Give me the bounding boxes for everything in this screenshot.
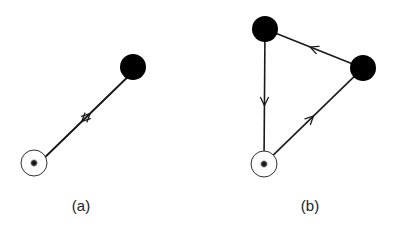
panel-a-label: (a) <box>72 197 90 214</box>
filled-node <box>350 55 376 81</box>
panel-b-label: (b) <box>301 197 319 214</box>
edge-line <box>275 33 353 64</box>
filled-node <box>120 54 146 80</box>
diagram-svg <box>0 0 395 226</box>
panel-b-diagram <box>251 16 376 177</box>
edge-line <box>264 40 265 153</box>
filled-node <box>252 16 278 42</box>
panel-a-diagram <box>21 54 146 176</box>
center-dot-icon <box>260 160 269 169</box>
diagram-canvas: (a) (b) <box>0 0 395 226</box>
edge-line <box>44 77 127 158</box>
center-dot-icon <box>30 159 39 168</box>
